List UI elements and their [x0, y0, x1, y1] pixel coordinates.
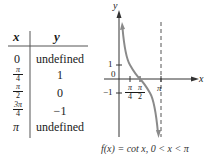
table-header-x: x [13, 29, 20, 45]
table-cell-x: 0 [14, 53, 20, 65]
caption-domain: 0 < x < π [151, 143, 189, 154]
table-cell-y: 1 [32, 69, 88, 81]
table-cell-y: −1 [32, 105, 88, 117]
cot-graph: y x 0 1 −1 π4 π2 π [100, 0, 208, 140]
table-cell-x: π [13, 121, 19, 133]
frac-num: π [128, 83, 132, 92]
frac-den: 2 [16, 91, 20, 100]
values-table: x y 0 undefined π4 1 π2 0 3π4 −1 π undef… [0, 0, 100, 161]
frac-num: π [16, 65, 20, 74]
x-tick-label: π2 [133, 84, 147, 101]
frac-num: 3π [14, 100, 22, 109]
cot-curve [123, 28, 159, 133]
frac-num: π [138, 83, 142, 92]
origin-label: 0 [111, 69, 116, 79]
y-tick-label: −1 [103, 87, 113, 97]
frac-den: 4 [128, 92, 132, 101]
x-axis-arrow-icon [191, 77, 199, 82]
y-axis-label: y [113, 0, 117, 11]
curve-arrow-top-icon [120, 22, 125, 30]
frac-den: 2 [138, 92, 142, 101]
frac-den: 4 [16, 109, 20, 118]
table-cell-x: π2 [11, 83, 25, 100]
table-header-y: y [54, 29, 60, 45]
graph-canvas [100, 0, 208, 140]
table-cell-x: 3π4 [11, 101, 25, 118]
y-tick-label: 1 [108, 59, 113, 69]
frac-num: π [16, 82, 20, 91]
table-cell-x: π4 [11, 66, 25, 83]
x-axis-label: x [199, 73, 203, 84]
table-cell-y: undefined [32, 53, 88, 65]
graph-caption: f(x) = cot x, 0 < x < π [101, 143, 189, 154]
x-tick-label: π [157, 83, 162, 93]
y-axis-arrow-icon [117, 10, 122, 18]
table-cell-y: 0 [32, 87, 88, 99]
caption-function: f(x) = cot x, [101, 143, 148, 154]
table-cell-y: undefined [32, 121, 88, 133]
curve-arrow-bottom-icon [156, 130, 161, 138]
